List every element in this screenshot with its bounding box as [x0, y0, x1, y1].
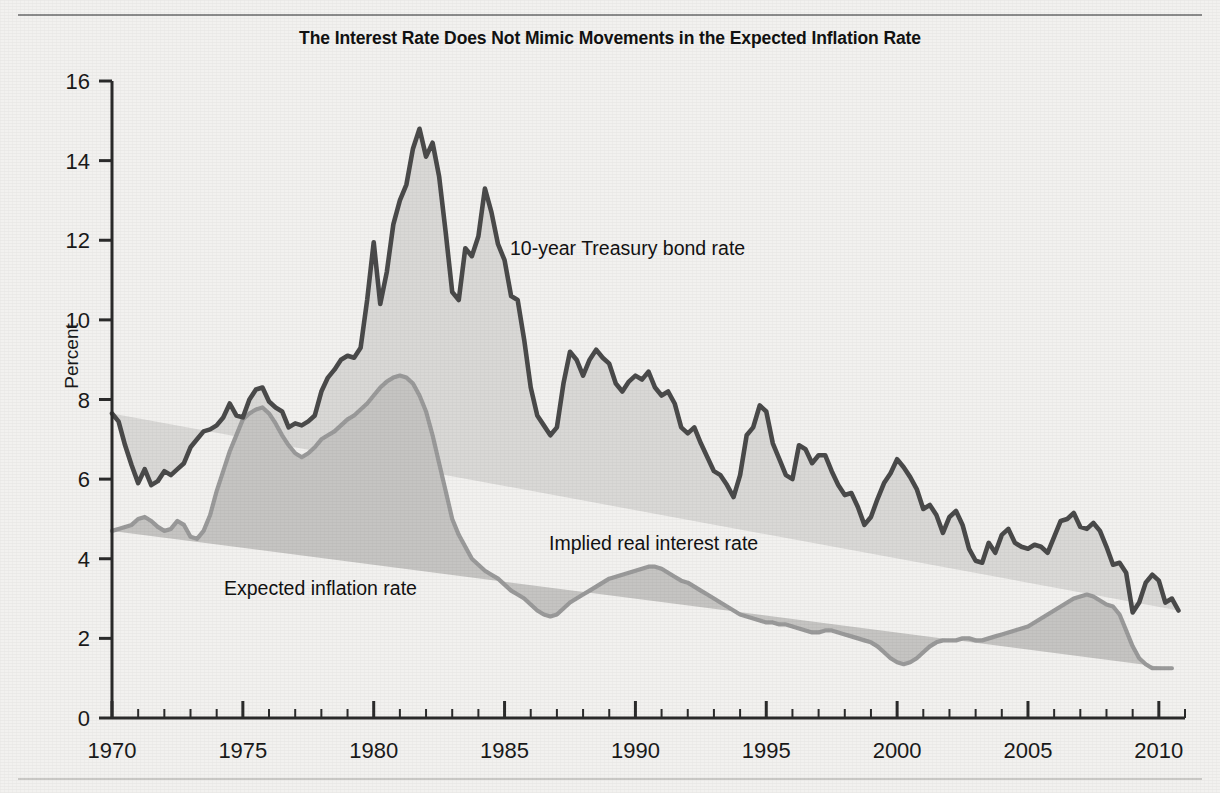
svg-text:1970: 1970 [88, 738, 137, 763]
annotation-nominal-rate: 10-year Treasury bond rate [510, 237, 745, 259]
annotation-real-rate: Implied real interest rate [549, 532, 758, 554]
annotation-expected-inflation: Expected inflation rate [224, 577, 417, 599]
chart-plot: 0246810121416 19701975198019851990199520… [0, 0, 1220, 793]
svg-text:1980: 1980 [349, 738, 398, 763]
svg-text:2000: 2000 [873, 738, 922, 763]
svg-text:12: 12 [66, 228, 90, 253]
svg-text:8: 8 [78, 388, 90, 413]
svg-text:1990: 1990 [611, 738, 660, 763]
svg-text:1975: 1975 [218, 738, 267, 763]
x-tick-labels: 197019751980198519901995200020052010 [88, 738, 1184, 763]
svg-text:4: 4 [78, 547, 90, 572]
svg-text:1995: 1995 [742, 738, 791, 763]
figure-container: The Interest Rate Does Not Mimic Movemen… [0, 0, 1220, 793]
svg-text:6: 6 [78, 467, 90, 492]
svg-text:0: 0 [78, 706, 90, 731]
svg-text:1985: 1985 [480, 738, 529, 763]
y-tick-labels: 0246810121416 [66, 69, 90, 731]
svg-text:10: 10 [66, 308, 90, 333]
svg-text:2005: 2005 [1003, 738, 1052, 763]
svg-text:16: 16 [66, 69, 90, 94]
svg-text:2010: 2010 [1134, 738, 1183, 763]
svg-text:14: 14 [66, 149, 90, 174]
svg-text:2: 2 [78, 626, 90, 651]
